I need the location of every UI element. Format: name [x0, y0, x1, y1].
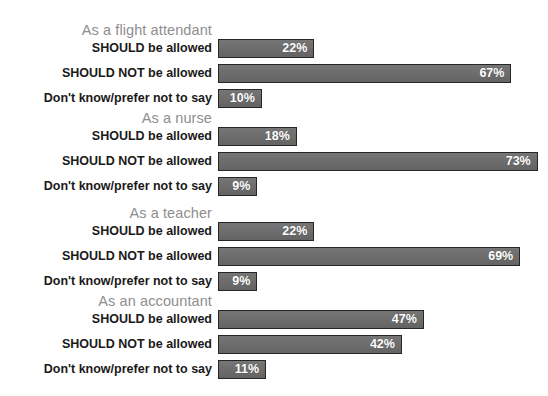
bar-track: 69% [218, 247, 520, 266]
bar-track: 67% [218, 64, 511, 83]
bar: 9% [218, 177, 257, 196]
bar-row-label: SHOULD NOT be allowed [0, 152, 212, 171]
bar-row: Don't know/prefer not to say11% [0, 360, 548, 385]
bar-row-label: Don't know/prefer not to say [0, 177, 212, 196]
bar-value-label: 22% [282, 42, 313, 55]
bar-track: 10% [218, 89, 262, 108]
bar-row-label: SHOULD NOT be allowed [0, 247, 212, 266]
bar: 42% [218, 335, 402, 354]
bar-track: 9% [218, 177, 257, 196]
bar-row: SHOULD be allowed22% [0, 39, 548, 64]
bar-group: As a nurseSHOULD be allowed18%SHOULD NOT… [0, 110, 548, 202]
bar-row-label: Don't know/prefer not to say [0, 272, 212, 291]
group-header: As an accountant [0, 293, 212, 310]
bar-group: As a teacherSHOULD be allowed22%SHOULD N… [0, 205, 548, 297]
bar-track: 22% [218, 222, 314, 241]
bar-row: SHOULD NOT be allowed73% [0, 152, 548, 177]
bar-row-label: SHOULD NOT be allowed [0, 64, 212, 83]
bar-value-label: 18% [265, 130, 296, 143]
bar-track: 42% [218, 335, 402, 354]
bar-row-label: Don't know/prefer not to say [0, 89, 212, 108]
bar-row-label: SHOULD be allowed [0, 39, 212, 58]
bar-value-label: 9% [232, 180, 256, 193]
bar-row: SHOULD NOT be allowed67% [0, 64, 548, 89]
bar-row-label: SHOULD be allowed [0, 222, 212, 241]
bar-row-label: SHOULD be allowed [0, 310, 212, 329]
bar-group: As an accountantSHOULD be allowed47%SHOU… [0, 293, 548, 385]
bar: 67% [218, 64, 511, 83]
bar-chart: As a flight attendantSHOULD be allowed22… [0, 0, 548, 396]
bar: 22% [218, 39, 314, 58]
bar-value-label: 69% [488, 250, 519, 263]
bar-value-label: 11% [235, 363, 265, 376]
bar: 22% [218, 222, 314, 241]
bar-row-label: SHOULD be allowed [0, 127, 212, 146]
bar-track: 73% [218, 152, 538, 171]
bar: 11% [218, 360, 266, 379]
bar-track: 22% [218, 39, 314, 58]
bar: 73% [218, 152, 538, 171]
bar-track: 11% [218, 360, 266, 379]
group-header: As a nurse [0, 110, 212, 127]
bar-track: 18% [218, 127, 297, 146]
bar-row-label: Don't know/prefer not to say [0, 360, 212, 379]
bar-row: SHOULD be allowed22% [0, 222, 548, 247]
group-header: As a teacher [0, 205, 212, 222]
bar-value-label: 42% [370, 338, 401, 351]
bar: 18% [218, 127, 297, 146]
group-header: As a flight attendant [0, 22, 212, 39]
bar-track: 47% [218, 310, 424, 329]
bar-value-label: 73% [506, 155, 537, 168]
bar-value-label: 47% [392, 313, 423, 326]
bar-row: SHOULD be allowed18% [0, 127, 548, 152]
bar-value-label: 10% [230, 92, 261, 105]
bar: 10% [218, 89, 262, 108]
bar-row-label: SHOULD NOT be allowed [0, 335, 212, 354]
bar-value-label: 9% [232, 275, 256, 288]
bar: 9% [218, 272, 257, 291]
bar-row: SHOULD be allowed47% [0, 310, 548, 335]
bar-row: SHOULD NOT be allowed69% [0, 247, 548, 272]
bar-row: SHOULD NOT be allowed42% [0, 335, 548, 360]
bar-value-label: 67% [479, 67, 510, 80]
bar-track: 9% [218, 272, 257, 291]
bar-value-label: 22% [282, 225, 313, 238]
bar: 69% [218, 247, 520, 266]
bar: 47% [218, 310, 424, 329]
bar-group: As a flight attendantSHOULD be allowed22… [0, 22, 548, 114]
bar-row: Don't know/prefer not to say9% [0, 177, 548, 202]
